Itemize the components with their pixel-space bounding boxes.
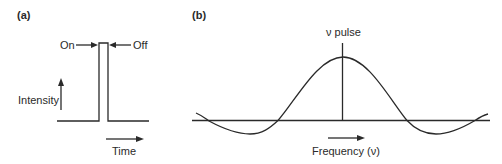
panel-b: (b) ν pulse Frequency (ν) <box>192 9 490 157</box>
time-label: Time <box>112 145 136 157</box>
panel-a-label: (a) <box>17 9 31 21</box>
frequency-label: Frequency (ν) <box>312 145 380 157</box>
pulse-waveform <box>57 43 149 121</box>
frequency-arrow-icon <box>328 135 365 141</box>
time-arrow-icon <box>106 136 144 142</box>
nu-pulse-label: ν pulse <box>326 26 361 38</box>
panel-a: (a) On Off Intensity Time <box>17 9 149 157</box>
off-label: Off <box>133 39 148 51</box>
off-arrow-icon <box>109 42 131 48</box>
diagram-canvas: (a) On Off Intensity Time (b) <box>0 0 502 164</box>
on-label: On <box>60 39 75 51</box>
intensity-label: Intensity <box>18 94 59 106</box>
panel-b-label: (b) <box>192 9 206 21</box>
on-arrow-icon <box>76 42 98 48</box>
